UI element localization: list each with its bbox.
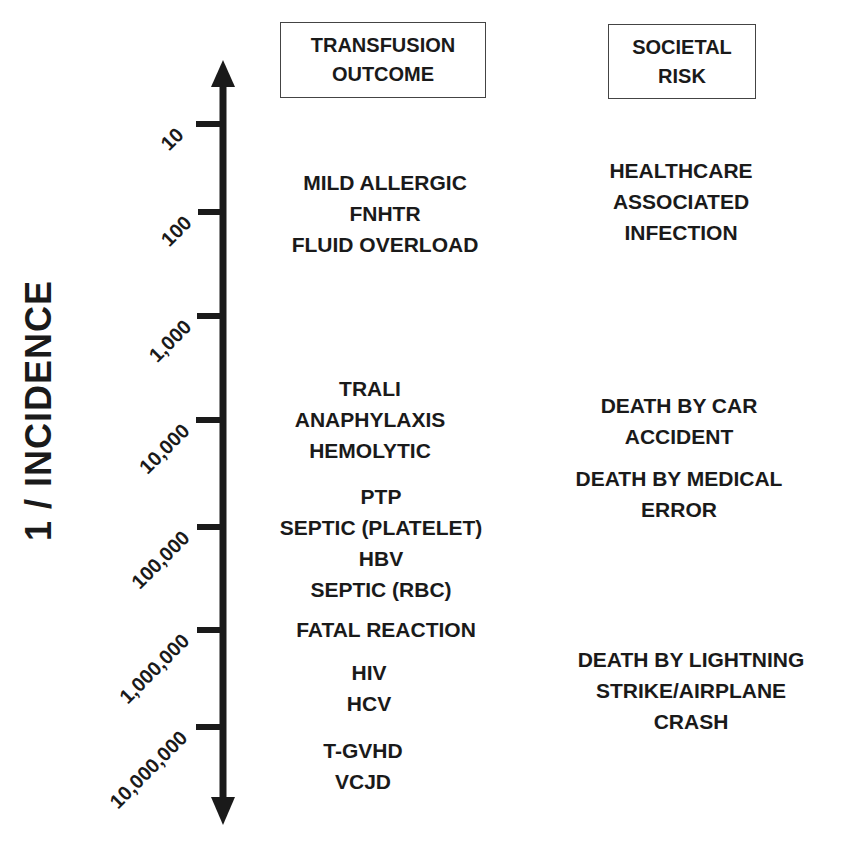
- risk-item: DEATH BY LIGHTNING: [578, 644, 805, 675]
- outcome-item: VCJD: [323, 766, 402, 797]
- outcome-item: HEMOLYTIC: [295, 435, 446, 466]
- axis-title: 1 / INCIDENCE: [18, 311, 60, 541]
- societal-group-lightning: DEATH BY LIGHTNING STRIKE/AIRPLANE CRASH: [578, 644, 805, 737]
- transfusion-group-viral: HIV HCV: [347, 657, 391, 719]
- outcome-item: MILD ALLERGIC: [292, 167, 479, 198]
- outcome-item: FNHTR: [292, 198, 479, 229]
- arrow-down-icon: [211, 797, 235, 825]
- transfusion-group-trali: TRALI ANAPHYLAXIS HEMOLYTIC: [295, 373, 446, 466]
- outcome-item: HCV: [347, 688, 391, 719]
- outcome-item: HIV: [347, 657, 391, 688]
- risk-item: HEALTHCARE: [609, 155, 752, 186]
- risk-item: STRIKE/AIRPLANE: [578, 675, 805, 706]
- outcome-item: FLUID OVERLOAD: [292, 229, 479, 260]
- risk-item: ASSOCIATED: [609, 186, 752, 217]
- outcome-item: ANAPHYLAXIS: [295, 404, 446, 435]
- risk-item: INFECTION: [609, 217, 752, 248]
- outcome-item: FATAL REACTION: [296, 614, 476, 645]
- risk-item: DEATH BY CAR: [601, 390, 758, 421]
- outcome-item: T-GVHD: [323, 735, 402, 766]
- tick-marks: [196, 124, 222, 727]
- risk-item: ACCIDENT: [601, 421, 758, 452]
- societal-group-hai: HEALTHCARE ASSOCIATED INFECTION: [609, 155, 752, 248]
- transfusion-group-fatal: FATAL REACTION: [296, 614, 476, 645]
- societal-group-car: DEATH BY CAR ACCIDENT: [601, 390, 758, 452]
- risk-item: ERROR: [576, 494, 783, 525]
- outcome-item: SEPTIC (PLATELET): [280, 512, 483, 543]
- transfusion-group-septic: PTP SEPTIC (PLATELET) HBV SEPTIC (RBC): [280, 481, 483, 605]
- transfusion-group-rare: T-GVHD VCJD: [323, 735, 402, 797]
- outcome-item: TRALI: [295, 373, 446, 404]
- outcome-item: HBV: [280, 543, 483, 574]
- outcome-item: PTP: [280, 481, 483, 512]
- outcome-item: SEPTIC (RBC): [280, 574, 483, 605]
- transfusion-group-mild: MILD ALLERGIC FNHTR FLUID OVERLOAD: [292, 167, 479, 260]
- arrow-up-icon: [211, 60, 235, 87]
- risk-item: DEATH BY MEDICAL: [576, 463, 783, 494]
- societal-group-medical: DEATH BY MEDICAL ERROR: [576, 463, 783, 525]
- risk-item: CRASH: [578, 706, 805, 737]
